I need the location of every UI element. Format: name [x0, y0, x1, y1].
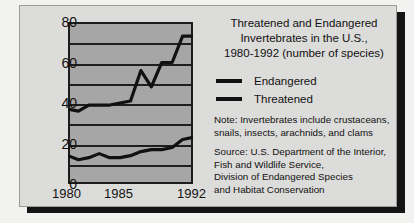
legend-swatch-icon — [216, 79, 242, 83]
chart-figure: 020406080 198019851992 Threatened and En… — [0, 0, 414, 223]
series-line-endangered — [68, 36, 193, 111]
source-line: Division of Endangered Species — [214, 171, 400, 184]
source-line: Source: U.S. Department of the Interior, — [214, 146, 400, 159]
chart-title-line: Invertebrates in the U.S., — [212, 31, 396, 46]
note-line: snails, insects, arachnids, and clams — [214, 127, 398, 140]
legend-item-endangered[interactable]: Endangered — [216, 72, 396, 90]
chart-area: 020406080 198019851992 — [20, 6, 208, 208]
legend-item-threatened[interactable]: Threatened — [216, 90, 396, 108]
x-axis-tick-label: 1980 — [52, 187, 81, 200]
x-axis-tick-label: 1985 — [104, 187, 133, 200]
chart-title: Threatened and EndangeredInvertebrates i… — [212, 16, 396, 61]
figure-card: 020406080 198019851992 Threatened and En… — [19, 5, 397, 207]
note-line: Note: Invertebrates include crustaceans, — [214, 114, 398, 127]
info-panel: Threatened and EndangeredInvertebrates i… — [210, 6, 398, 208]
x-axis-tick-label: 1992 — [177, 187, 206, 200]
y-axis-tick-label: 20 — [61, 137, 77, 151]
legend-swatch-icon — [216, 97, 242, 101]
chart-title-line: 1980-1992 (number of species) — [212, 46, 396, 61]
source-line: Fish and Wildlife Service, — [214, 159, 400, 172]
source-line: and Habitat Conservation — [214, 184, 400, 197]
y-axis-tick-label: 40 — [61, 96, 77, 110]
legend-label: Threatened — [254, 93, 313, 105]
y-axis-tick-label: 60 — [61, 56, 77, 70]
data-series-layer — [68, 22, 193, 184]
source-text: Source: U.S. Department of the Interior,… — [214, 146, 400, 196]
chart-legend: EndangeredThreatened — [216, 72, 396, 108]
y-axis-tick-label: 80 — [61, 15, 77, 29]
legend-label: Endangered — [254, 75, 317, 87]
chart-title-line: Threatened and Endangered — [212, 16, 396, 31]
note-text: Note: Invertebrates include crustaceans,… — [214, 114, 398, 139]
series-line-threatened — [68, 137, 193, 159]
